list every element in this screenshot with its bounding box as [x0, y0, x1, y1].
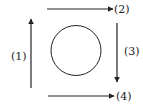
arrow-2: (2) [47, 3, 130, 16]
arrow-circle-diagram: (1) (2) (3) (4) [0, 0, 143, 104]
arrow-1: (1) [11, 19, 31, 88]
arrow-3: (3) [117, 23, 140, 82]
arrow-3-label: (3) [124, 45, 140, 58]
arrow-2-label: (2) [114, 3, 130, 16]
arrow-4: (4) [48, 90, 132, 103]
arrow-4-label: (4) [116, 90, 132, 103]
arrow-1-label: (1) [11, 50, 27, 63]
center-circle [51, 26, 101, 76]
